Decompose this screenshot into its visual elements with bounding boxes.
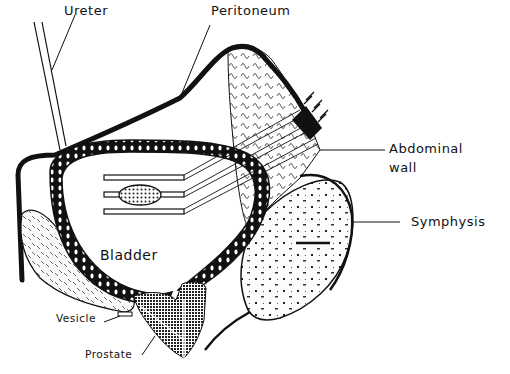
- label-bladder: Bladder: [100, 247, 158, 263]
- label-abdominal-wall-line2: wall: [389, 160, 417, 175]
- label-vesicle: Vesicle: [56, 312, 96, 324]
- perineal-contour: [205, 312, 250, 350]
- label-prostate: Prostate: [85, 348, 132, 360]
- tumor-lesion: [119, 185, 161, 205]
- label-peritoneum: Peritoneum: [211, 3, 291, 18]
- vesicle-duct: [118, 312, 132, 316]
- label-ureter: Ureter: [64, 3, 108, 18]
- label-abdominal-wall-line1: Abdominal: [389, 141, 463, 156]
- ureter: [34, 22, 66, 150]
- label-symphysis: Symphysis: [411, 214, 485, 229]
- pelvis-anatomy-diagram: Ureter Peritoneum Abdominal wall Symphys…: [0, 0, 510, 374]
